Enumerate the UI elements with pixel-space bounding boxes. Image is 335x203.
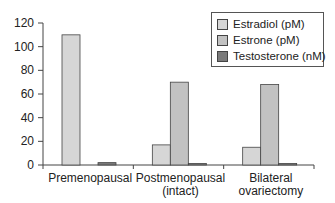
y-axis: 020406080100120 xyxy=(14,16,43,172)
bar xyxy=(261,85,279,165)
category-labels: PremenopausalPostmenopausal(intact)Bilat… xyxy=(48,171,303,198)
legend-item-estradiol: Estradiol (pM) xyxy=(217,16,318,32)
bar xyxy=(98,163,116,165)
estradiol-swatch-icon xyxy=(217,19,228,30)
y-tick-label: 40 xyxy=(21,111,35,125)
legend: Estradiol (pM) Estrone (pM) Testosterone… xyxy=(211,12,324,67)
y-tick-label: 120 xyxy=(14,16,34,30)
legend-label: Estradiol (pM) xyxy=(233,18,305,30)
category-label: (intact) xyxy=(162,184,199,198)
estrone-swatch-icon xyxy=(217,35,228,46)
y-tick-label: 60 xyxy=(21,87,35,101)
x-axis xyxy=(43,165,314,169)
legend-item-testosterone: Testosterone (nM) xyxy=(217,48,318,64)
legend-label: Estrone (pM) xyxy=(233,34,299,46)
y-tick-label: 80 xyxy=(21,63,35,77)
y-tick-label: 20 xyxy=(21,134,35,148)
bar xyxy=(170,82,188,165)
bar xyxy=(62,35,80,165)
category-label: Postmenopausal xyxy=(136,171,225,185)
bar xyxy=(188,164,206,166)
category-label: Premenopausal xyxy=(48,171,132,185)
y-tick-label: 100 xyxy=(14,40,34,54)
legend-item-estrone: Estrone (pM) xyxy=(217,32,318,48)
category-label: ovariectomy xyxy=(238,184,303,198)
bar xyxy=(152,145,170,165)
y-tick-label: 0 xyxy=(27,158,34,172)
legend-label: Testosterone (nM) xyxy=(233,50,326,62)
bar xyxy=(243,147,261,165)
testosterone-swatch-icon xyxy=(217,51,228,62)
category-label: Bilateral xyxy=(249,171,292,185)
bar xyxy=(279,164,297,166)
